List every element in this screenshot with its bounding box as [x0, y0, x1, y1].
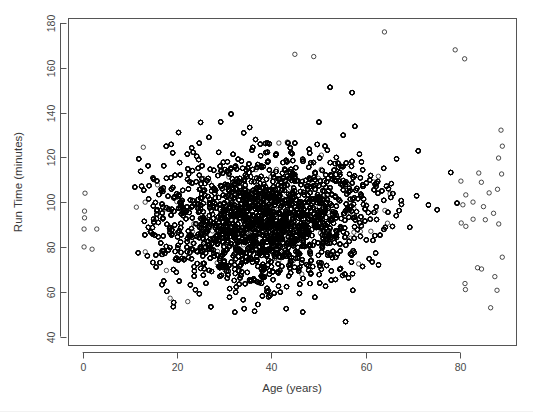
y-tick-label: 140 — [45, 105, 57, 123]
y-tick-label: 80 — [45, 242, 57, 254]
y-tick-label: 60 — [45, 287, 57, 299]
page-edge-artifact — [0, 411, 533, 412]
x-tick-label: 40 — [266, 361, 278, 373]
y-tick-label: 100 — [45, 194, 57, 212]
scatter-plot-figure: 020406080 406080100120140160180 Age (yea… — [0, 0, 533, 416]
y-tick-label: 160 — [45, 60, 57, 78]
x-tick-label: 60 — [361, 361, 373, 373]
x-tick-label: 0 — [81, 361, 87, 373]
y-tick-label: 120 — [45, 149, 57, 167]
x-tick-label: 20 — [172, 361, 184, 373]
chart-canvas: 020406080 406080100120140160180 Age (yea… — [0, 0, 533, 416]
x-tick-label: 80 — [455, 361, 467, 373]
y-axis-title: Run Time (minutes) — [12, 132, 24, 233]
y-tick-label: 40 — [45, 332, 57, 344]
y-tick-label: 180 — [45, 15, 57, 33]
x-axis-title: Age (years) — [262, 382, 322, 394]
